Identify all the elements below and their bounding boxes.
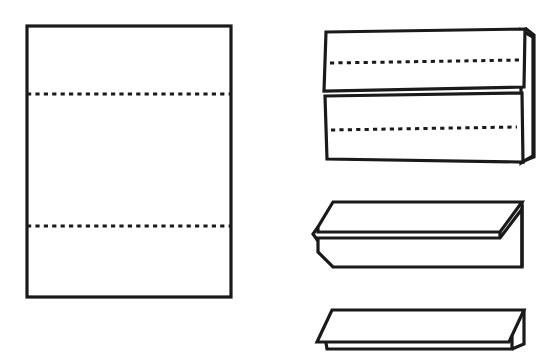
figure-second-fold xyxy=(313,202,522,267)
second-fold-left-pinch xyxy=(313,227,318,241)
paper-folding-diagram: Paper folding sequence Line drawing of a… xyxy=(0,0,557,363)
diagram-canvas xyxy=(0,0,557,363)
figure-first-fold xyxy=(324,28,534,163)
figure-third-fold xyxy=(317,310,524,349)
flat-sheet-outline xyxy=(27,26,231,297)
first-fold-upper-panel xyxy=(324,29,525,91)
second-fold-top-flap xyxy=(318,202,522,232)
third-fold-top-face xyxy=(317,310,524,342)
figure-flat-sheet xyxy=(27,26,231,297)
